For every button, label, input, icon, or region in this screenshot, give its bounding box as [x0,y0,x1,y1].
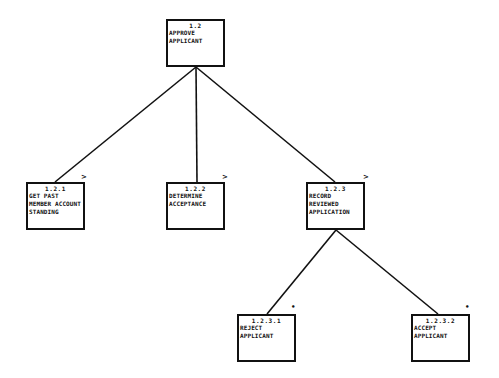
node-approve-applicant: 1.2 APPROVE APPLICANT [166,19,225,67]
edge-1-2-3-to-1-2-3-1 [267,230,336,314]
node-label-line: APPLICANT [240,332,293,340]
dot-icon: • [291,304,295,311]
node-label-line: APPROVE [169,29,222,37]
node-label-line: RECORD [309,192,362,200]
node-number: 1.2.3.1 [240,317,293,324]
chevron-right-icon: > [222,174,228,181]
node-label-line: APPLICATION [309,208,362,216]
node-number: 1.2.2 [169,185,222,192]
node-label-line: STANDING [29,208,82,216]
node-number: 1.2.1 [29,185,82,192]
node-label-line: GET PAST [29,192,82,200]
node-get-past-member-account-standing: 1.2.1 GET PAST MEMBER ACCOUNT STANDING [26,182,85,230]
node-reject-applicant: 1.2.3.1 REJECT APPLICANT [237,314,296,362]
node-label-line: APPLICANT [169,37,222,45]
node-number: 1.2.3.2 [414,317,467,324]
node-label-line: DETERMINE [169,192,222,200]
edge-1-2-to-1-2-2 [196,67,197,182]
node-number: 1.2.3 [309,185,362,192]
edge-1-2-to-1-2-3 [196,67,335,182]
node-label-line: ACCEPTANCE [169,200,222,208]
node-determine-acceptance: 1.2.2 DETERMINE ACCEPTANCE [166,182,225,230]
node-label-line: MEMBER ACCOUNT [29,200,82,208]
node-label-line: ACCEPT [414,324,467,332]
chevron-right-icon: > [81,174,87,181]
edge-1-2-3-to-1-2-3-2 [336,230,438,314]
node-label-line: APPLICANT [414,332,467,340]
hierarchy-diagram: 1.2 APPROVE APPLICANT 1.2.1 GET PAST MEM… [0,0,499,378]
node-number: 1.2 [169,22,222,29]
dot-icon: • [465,304,469,311]
chevron-right-icon: > [363,174,369,181]
node-label-line: REJECT [240,324,293,332]
node-accept-applicant: 1.2.3.2 ACCEPT APPLICANT [411,314,470,362]
node-record-reviewed-application: 1.2.3 RECORD REVIEWED APPLICATION [306,182,365,230]
edge-1-2-to-1-2-1 [55,67,196,182]
node-label-line: REVIEWED [309,200,362,208]
